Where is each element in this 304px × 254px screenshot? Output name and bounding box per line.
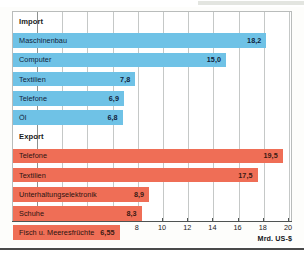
bar-export-1[interactable]: Textilien17,5 bbox=[13, 168, 258, 183]
x-tick-14 bbox=[212, 218, 213, 222]
bar-row: Textilien17,5 bbox=[13, 166, 291, 185]
bar-row: Textilien7,8 bbox=[13, 70, 291, 89]
x-tick-label-16: 16 bbox=[234, 223, 242, 232]
bar-export-0[interactable]: Telefone19,5 bbox=[13, 149, 283, 164]
x-axis-unit-label: Mrd. US-$ bbox=[258, 234, 292, 243]
bar-value-label: 6,9 bbox=[109, 94, 119, 103]
bar-value-label: 8,9 bbox=[134, 190, 144, 199]
bar-export-3[interactable]: Schuhe8,3 bbox=[13, 206, 142, 221]
x-tick-label-10: 10 bbox=[158, 223, 166, 232]
bar-category-label: Öl bbox=[13, 113, 26, 122]
bar-import-4[interactable]: Öl6,8 bbox=[13, 110, 123, 125]
section-header-import: Import bbox=[13, 12, 291, 31]
bar-value-label: 19,5 bbox=[263, 151, 277, 160]
bar-row: Telefone6,9 bbox=[13, 89, 291, 108]
bar-category-label: Textilien bbox=[13, 75, 46, 84]
section-title-import: Import bbox=[13, 17, 43, 26]
bar-category-label: Textilien bbox=[13, 171, 46, 180]
bar-row: Maschinenbau18,2 bbox=[13, 31, 291, 50]
bar-import-3[interactable]: Telefone6,9 bbox=[13, 91, 124, 106]
scan-edge-top bbox=[0, 0, 304, 7]
plot-area: ImportMaschinenbau18,2Computer15,0Textil… bbox=[12, 11, 292, 222]
bar-export-2[interactable]: Unterhaltungselektronik8,9 bbox=[13, 187, 149, 202]
bar-value-label: 7,8 bbox=[120, 75, 130, 84]
bar-category-label: Unterhaltungselektronik bbox=[13, 190, 97, 199]
chart-figure: ImportMaschinenbau18,2Computer15,0Textil… bbox=[0, 0, 304, 254]
bar-row: Öl6,8 bbox=[13, 108, 291, 127]
bar-value-label: 6,55 bbox=[100, 228, 114, 237]
x-tick-20 bbox=[288, 218, 289, 222]
bar-rows: ImportMaschinenbau18,2Computer15,0Textil… bbox=[13, 12, 291, 221]
x-tick-label-20: 20 bbox=[284, 223, 292, 232]
section-header-export: Export bbox=[13, 127, 291, 146]
x-tick-label-12: 12 bbox=[183, 223, 191, 232]
x-tick-10 bbox=[162, 218, 163, 222]
x-tick-label-18: 18 bbox=[259, 223, 267, 232]
bar-import-1[interactable]: Computer15,0 bbox=[13, 53, 226, 68]
bar-value-label: 18,2 bbox=[247, 36, 261, 45]
bar-import-2[interactable]: Textilien7,8 bbox=[13, 72, 135, 87]
x-tick-16 bbox=[238, 218, 239, 222]
bar-row: Telefone19,5 bbox=[13, 146, 291, 165]
bar-value-label: 15,0 bbox=[207, 55, 221, 64]
bar-row: Computer15,0 bbox=[13, 50, 291, 69]
bar-value-label: 6,8 bbox=[108, 113, 118, 122]
x-tick-label-14: 14 bbox=[208, 223, 216, 232]
x-tick-18 bbox=[263, 218, 264, 222]
bar-category-label: Fisch u. Meeresfrüchte bbox=[13, 228, 94, 237]
scan-edge-bottom bbox=[0, 246, 304, 254]
bar-export-4[interactable]: Fisch u. Meeresfrüchte6,55 bbox=[13, 225, 120, 240]
x-tick-label-8: 8 bbox=[135, 223, 139, 232]
section-title-export: Export bbox=[13, 132, 44, 141]
bar-category-label: Computer bbox=[13, 55, 51, 64]
bar-category-label: Maschinenbau bbox=[13, 36, 67, 45]
bar-row: Unterhaltungselektronik8,9 bbox=[13, 185, 291, 204]
bar-import-0[interactable]: Maschinenbau18,2 bbox=[13, 33, 266, 48]
bar-category-label: Telefone bbox=[13, 151, 47, 160]
bar-category-label: Telefone bbox=[13, 94, 47, 103]
bar-value-label: 17,5 bbox=[238, 171, 252, 180]
bar-category-label: Schuhe bbox=[13, 209, 44, 218]
bar-value-label: 8,3 bbox=[126, 209, 136, 218]
x-tick-12 bbox=[187, 218, 188, 222]
